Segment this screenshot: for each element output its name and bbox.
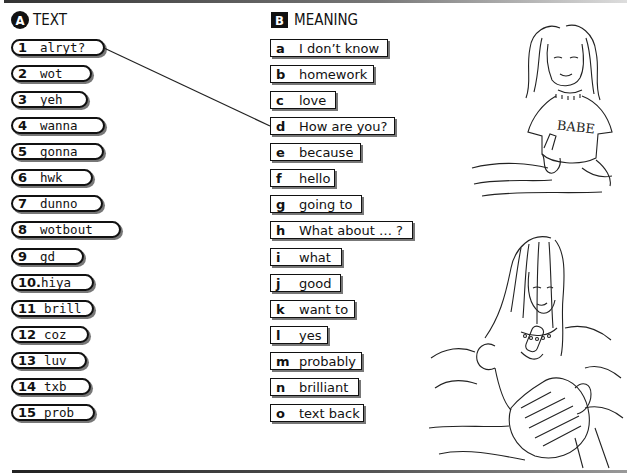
svg-text:BABE: BABE [556, 118, 595, 137]
illustration-girl-babe-shirt: BABE [462, 8, 627, 198]
illustration-girl-with-phone [425, 228, 625, 470]
